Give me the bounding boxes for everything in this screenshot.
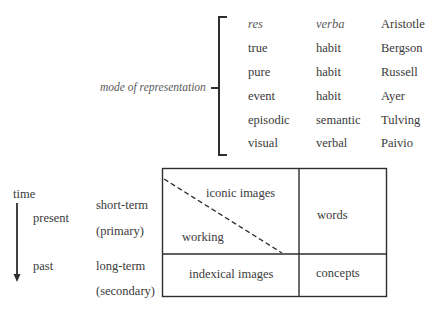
table-cell-r0c1: res	[248, 17, 263, 31]
grid-cell-words: words	[317, 208, 348, 222]
table-cell-r2c3: Russell	[381, 65, 418, 79]
table-cell-r0c2: verba	[316, 17, 344, 31]
time-label: time	[13, 187, 35, 201]
secondary-label: (secondary)	[96, 284, 155, 298]
table-cell-r1c3: Bergson	[381, 41, 422, 55]
bracket-bottom-tick	[218, 154, 227, 156]
bracket-top-tick	[218, 16, 227, 18]
table-cell-r2c1: pure	[248, 65, 270, 79]
past-label: past	[33, 259, 53, 273]
bracket-middle-tick	[211, 87, 219, 89]
table-cell-r5c3: Paivio	[381, 136, 413, 150]
bracket-label: mode of representation	[100, 80, 206, 94]
table-cell-r3c3: Ayer	[381, 89, 405, 103]
table-cell-r4c3: Tulving	[381, 113, 420, 127]
table-cell-r5c2: verbal	[316, 136, 347, 150]
grid-cell-indexical-images: indexical images	[189, 267, 273, 281]
primary-label: (primary)	[96, 224, 144, 238]
table-cell-r5c1: visual	[248, 136, 278, 150]
table-cell-r1c1: true	[248, 41, 267, 55]
table-cell-r4c1: episodic	[248, 113, 290, 127]
long-term-label: long-term	[96, 259, 145, 273]
table-cell-r3c2: habit	[316, 89, 341, 103]
table-cell-r1c2: habit	[316, 41, 341, 55]
short-term-label: short-term	[96, 198, 148, 212]
present-label: present	[33, 211, 69, 225]
table-cell-r3c1: event	[248, 89, 275, 103]
bracket-vertical	[218, 16, 220, 156]
grid-cell-working: working	[182, 230, 224, 244]
table-cell-r0c3: Aristotle	[381, 17, 425, 31]
table-cell-r2c2: habit	[316, 65, 341, 79]
table-cell-r4c2: semantic	[316, 113, 360, 127]
grid-cell-concepts: concepts	[316, 266, 360, 280]
grid-cell-iconic-images: iconic images	[206, 186, 275, 200]
